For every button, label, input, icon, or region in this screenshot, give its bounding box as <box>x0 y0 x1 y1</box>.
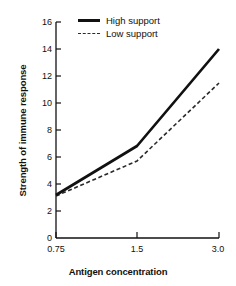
legend-item-high-support: High support <box>78 14 160 27</box>
legend-label: High support <box>106 16 160 26</box>
y-axis-ticks <box>56 22 61 211</box>
legend-item-low-support: Low support <box>78 27 160 40</box>
chart-legend: High support Low support <box>78 14 160 40</box>
plot-area <box>0 0 236 286</box>
dashed-line-swatch-icon <box>78 29 100 38</box>
line-chart: Strength of immune response Antigen conc… <box>0 0 236 286</box>
series-line-high-support <box>56 49 219 195</box>
solid-line-swatch-icon <box>78 16 100 25</box>
x-axis-ticks <box>56 232 219 238</box>
legend-label: Low support <box>106 29 158 39</box>
